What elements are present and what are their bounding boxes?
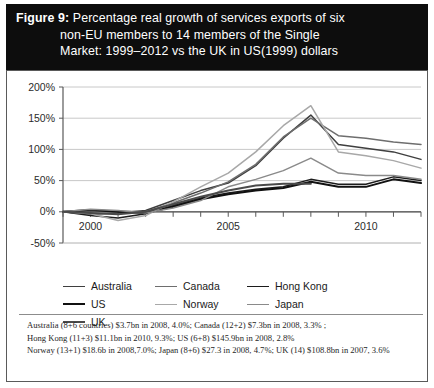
y-tick-label-150: 150% (28, 112, 55, 124)
legend-swatch-icon (247, 304, 269, 305)
footnote-divider (19, 314, 423, 315)
legend-swatch-icon (155, 286, 177, 287)
legend-label: Canada (183, 280, 220, 292)
y-tick-label-0: 0% (40, 205, 55, 217)
footnote-line-2: Hong Kong (11+3) $11.1bn in 2010, 9.3%; … (27, 332, 419, 345)
footnote-line-3: Norway (13+1) $18.6b in 2008,7.0%; Japan… (27, 344, 419, 357)
series-line-australia (63, 115, 421, 214)
x-tick-label-2010: 2010 (354, 220, 378, 232)
legend-item-canada[interactable]: Canada (155, 277, 247, 295)
legend-label: Norway (183, 298, 219, 310)
figure-title-line-1: Percentage real growth of services expor… (73, 11, 345, 25)
legend-swatch-icon (155, 304, 177, 305)
y-tick-label--50: -50% (30, 237, 55, 249)
figure-title-line-3: Market: 1999–2012 vs the UK in US(1999) … (16, 43, 418, 60)
figure-title: Figure 9: Percentage real growth of serv… (16, 10, 418, 60)
figure-title-line-2: non-EU members to 14 members of the Sing… (16, 27, 418, 44)
chart-card: -50%0%50%100%150%200%200020052010 Austra… (6, 70, 428, 382)
legend-item-hong-kong[interactable]: Hong Kong (247, 277, 339, 295)
figure-title-band: Figure 9: Percentage real growth of serv… (6, 4, 428, 70)
plot-area: -50%0%50%100%150%200%200020052010 (7, 75, 427, 275)
x-tick-label-2000: 2000 (79, 220, 103, 232)
legend-item-norway[interactable]: Norway (155, 295, 247, 313)
figure-label: Figure 9: (16, 11, 69, 25)
legend-item-australia[interactable]: Australia (63, 277, 155, 295)
legend-swatch-icon (247, 286, 269, 287)
line-chart-svg: -50%0%50%100%150%200%200020052010 (7, 75, 427, 275)
x-tick-label-2005: 2005 (217, 220, 241, 232)
legend-item-us[interactable]: US (63, 295, 155, 313)
legend-swatch-icon (63, 286, 85, 287)
series-line-norway (63, 106, 421, 221)
legend-label: Japan (275, 298, 304, 310)
y-tick-label-200: 200% (28, 81, 55, 93)
y-tick-label-50: 50% (34, 174, 55, 186)
figure-footnote: Australia (8+6 countries) $3.7bn in 2008… (27, 319, 419, 357)
figure-9-chart: Figure 9: Percentage real growth of serv… (0, 0, 434, 388)
footnote-line-1: Australia (8+6 countries) $3.7bn in 2008… (27, 319, 419, 332)
legend-label: Australia (91, 280, 132, 292)
legend-swatch-icon (63, 303, 85, 305)
legend-item-japan[interactable]: Japan (247, 295, 339, 313)
legend-label: US (91, 298, 106, 310)
y-tick-label-100: 100% (28, 143, 55, 155)
legend-label: Hong Kong (275, 280, 328, 292)
series-line-canada (63, 118, 421, 212)
